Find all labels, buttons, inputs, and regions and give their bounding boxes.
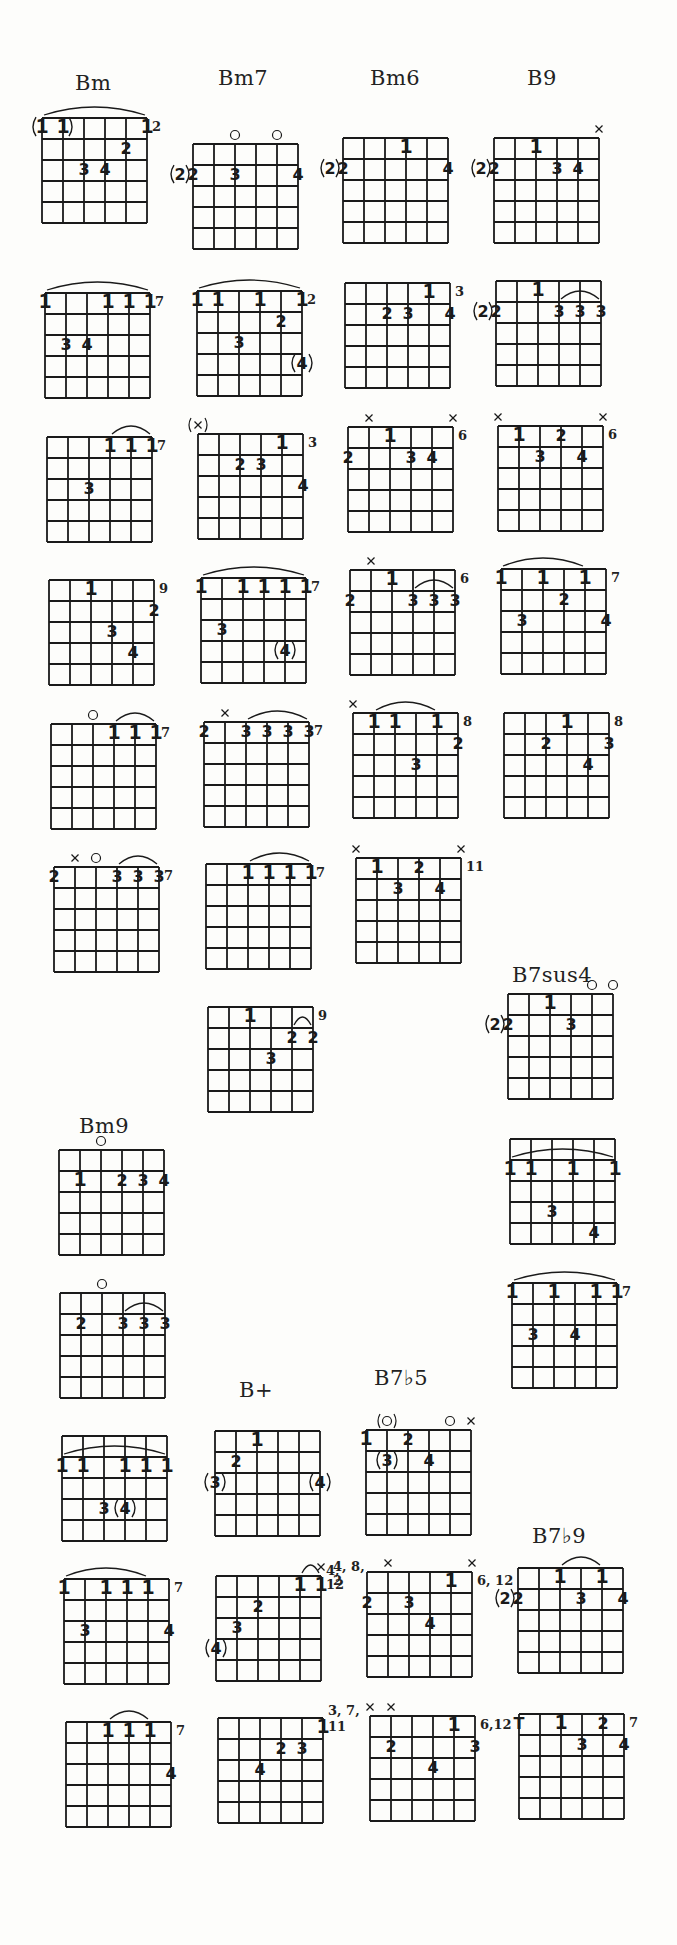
finger-number: 1 <box>578 566 591 588</box>
finger-number: 1 <box>543 991 556 1013</box>
finger-number: 1 <box>101 1719 114 1741</box>
fretboard-grid: 1234 <box>498 426 603 531</box>
finger-number: 1 <box>554 1711 567 1733</box>
fretboard-grid: 111 <box>51 724 156 829</box>
finger-number: 1 <box>120 1576 133 1598</box>
barre-arc <box>64 1446 165 1454</box>
finger-number: 3 <box>410 755 421 774</box>
finger-number: 3 <box>216 620 227 639</box>
finger-number: 4 <box>569 1325 580 1344</box>
finger-number: 1 <box>57 1576 70 1598</box>
finger-number: 2 <box>342 448 353 467</box>
finger-number: 3 <box>111 867 122 886</box>
fret-position-label: 6 <box>458 429 467 443</box>
fretboard-grid: 1234 <box>198 434 303 539</box>
finger-number: 3 <box>83 479 94 498</box>
finger-number: 2 <box>540 734 551 753</box>
fretboard-grid: 1223 <box>508 994 613 1099</box>
fretboard-grid: T1234 <box>519 1714 624 1819</box>
fret-position-label: 3 <box>308 436 317 450</box>
fretboard-grid: 1234 <box>348 427 453 532</box>
finger-number: 2 <box>344 591 355 610</box>
fretboard-grid: 1111134 <box>62 1436 167 1541</box>
chord-title: B+ <box>239 1378 273 1402</box>
finger-number: 4 <box>279 641 290 660</box>
fret-position-label: 7 <box>157 439 166 453</box>
finger-number: 4 <box>119 1499 130 1518</box>
finger-number: 1 <box>194 575 207 597</box>
fretboard-grid: 1234 <box>218 1718 323 1823</box>
barre-arc <box>47 282 148 290</box>
fret-position-label: 9 <box>318 1009 327 1023</box>
finger-number: 1 <box>505 1280 518 1302</box>
finger-number: 4 <box>424 1614 435 1633</box>
finger-number: 1 <box>56 115 69 137</box>
finger-number: 3 <box>98 1499 109 1518</box>
finger-number: 2 <box>198 722 209 741</box>
chord-title: Bm9 <box>79 1114 129 1138</box>
finger-number: 2 <box>555 426 566 445</box>
finger-number: 2 <box>48 867 59 886</box>
fretboard-grid: 1111 <box>206 864 311 969</box>
finger-number: 2 <box>75 1314 86 1333</box>
finger-number: 1 <box>103 434 116 456</box>
finger-number: 1 <box>190 288 203 310</box>
fretboard-grid: 111234 <box>501 569 606 674</box>
fret-position-label: 6, 12 <box>477 1574 513 1588</box>
finger-number: 1 <box>560 710 573 732</box>
finger-number: 3 <box>449 591 460 610</box>
finger-number: 4 <box>292 165 303 184</box>
finger-number: 1 <box>524 1157 537 1179</box>
optional-finger-number: 2 <box>324 159 335 178</box>
fretboard-grid: 1234 <box>49 580 154 685</box>
finger-number: 1 <box>76 1454 89 1476</box>
finger-number: 1 <box>257 575 270 597</box>
finger-number: 4 <box>210 1639 221 1658</box>
finger-number: 1 <box>253 288 266 310</box>
finger-number: 1 <box>250 1428 263 1450</box>
fret-position-label: 6 <box>608 428 617 442</box>
finger-number: 1 <box>595 1565 608 1587</box>
fret-position-label: 7 <box>155 295 164 309</box>
barre-arc <box>199 280 300 288</box>
finger-number: 1 <box>275 431 288 453</box>
fret-position-label: 7 <box>174 1581 183 1595</box>
finger-number: 1 <box>608 1157 621 1179</box>
chord-title: Bm7 <box>218 66 268 90</box>
finger-number: 1 <box>422 280 435 302</box>
finger-number: 3 <box>534 447 545 466</box>
muted-string-icon <box>318 1564 325 1571</box>
muted-string-icon <box>366 415 373 422</box>
finger-number: 3 <box>240 722 251 741</box>
finger-number: 4 <box>254 1760 265 1779</box>
finger-number: T <box>514 1714 525 1733</box>
finger-number: 4 <box>423 1451 434 1470</box>
fretboard-grid: 1234 <box>504 713 609 818</box>
fretboard-grid: 1113 <box>47 437 152 542</box>
barre-arc <box>376 702 435 710</box>
finger-number: 3 <box>546 1202 557 1221</box>
finger-number: 4 <box>442 159 453 178</box>
optional-finger-number: 2 <box>174 165 185 184</box>
finger-number: 3 <box>576 1735 587 1754</box>
fretboard-grid: 1111134 <box>201 578 306 683</box>
finger-number: 3 <box>469 1737 480 1756</box>
finger-number: 4 <box>296 354 307 373</box>
finger-number: 3 <box>595 302 606 321</box>
fret-position-label: 7 <box>629 1716 638 1730</box>
finger-number: 1 <box>293 1573 306 1595</box>
finger-number: 4 <box>618 1735 629 1754</box>
finger-number: 1 <box>35 115 48 137</box>
fretboard-grid: 112234 <box>518 1568 623 1673</box>
finger-number: 3 <box>106 622 117 641</box>
finger-number: 3 <box>527 1325 538 1344</box>
barre-arc <box>514 1272 615 1280</box>
finger-number: 3 <box>79 1621 90 1640</box>
finger-number: 1 <box>547 1280 560 1302</box>
finger-number: 4 <box>444 304 455 323</box>
finger-number: 1 <box>283 861 296 883</box>
finger-number: 4 <box>99 160 110 179</box>
finger-number: 4 <box>127 643 138 662</box>
finger-number: 3 <box>261 722 272 741</box>
finger-number: 2 <box>385 1737 396 1756</box>
